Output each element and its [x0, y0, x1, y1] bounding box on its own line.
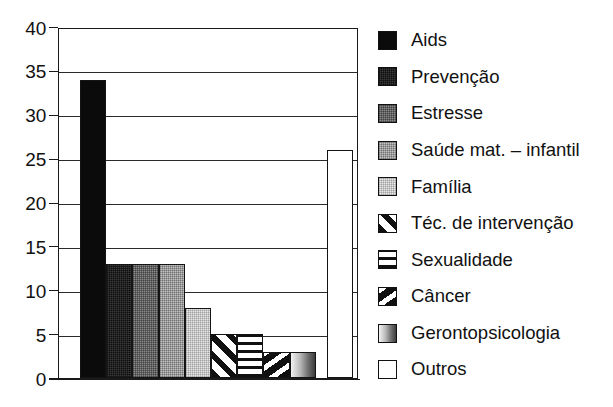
legend-label-7: Sexualidade: [411, 250, 513, 270]
y-tick-label-35: 35: [25, 62, 46, 81]
y-axis-line: [58, 28, 59, 379]
y-tick-label-5: 5: [36, 326, 46, 345]
y-tick-label-10: 10: [25, 282, 46, 301]
bar-10: [327, 150, 353, 378]
legend-item-5[interactable]: Família: [378, 168, 613, 205]
y-tick-15: [49, 246, 58, 247]
bar-7: [237, 334, 263, 378]
legend-swatch-icon-6: [378, 214, 397, 233]
plot-frame: [58, 28, 358, 379]
legend-swatch-icon-7: [378, 250, 397, 269]
x-axis-baseline: [49, 379, 360, 380]
bar-1: [80, 80, 106, 378]
legend-label-6: Téc. de intervenção: [411, 213, 573, 233]
bar-8: [263, 352, 289, 378]
y-tick-label-0: 0: [36, 370, 46, 389]
legend-label-2: Prevenção: [411, 67, 499, 87]
legend-item-8[interactable]: Câncer: [378, 278, 613, 315]
legend-swatch-icon-3: [378, 104, 397, 123]
legend-swatch-icon-5: [378, 177, 397, 196]
y-tick-label-25: 25: [25, 150, 46, 169]
y-tick-10: [49, 290, 58, 291]
legend-swatch-icon-2: [378, 67, 397, 86]
y-tick-label-20: 20: [25, 194, 46, 213]
legend-swatch-icon-8: [378, 287, 397, 306]
legend-label-10: Outros: [411, 359, 467, 379]
bar-6: [211, 334, 237, 378]
y-tick-label-40: 40: [25, 19, 46, 38]
legend-label-4: Saúde mat. – infantil: [411, 140, 580, 160]
bar-chart-figure: 4035302520151050 AidsPrevençãoEstresseSa…: [0, 0, 613, 407]
legend-swatch-icon-10: [378, 360, 397, 379]
bar-5: [185, 308, 211, 378]
bar-2: [106, 264, 132, 378]
bar-4: [159, 264, 185, 378]
bar-series: [59, 29, 357, 378]
y-axis-tick-labels: 4035302520151050: [0, 0, 46, 407]
bar-9: [290, 352, 316, 378]
legend-item-9[interactable]: Gerontopsicologia: [378, 315, 613, 352]
y-tick-30: [49, 115, 58, 116]
legend-item-6[interactable]: Téc. de intervenção: [378, 205, 613, 242]
legend-item-2[interactable]: Prevenção: [378, 59, 613, 96]
legend-label-9: Gerontopsicologia: [411, 323, 560, 343]
legend-swatch-icon-9: [378, 324, 397, 343]
y-tick-label-15: 15: [25, 238, 46, 257]
legend-item-4[interactable]: Saúde mat. – infantil: [378, 132, 613, 169]
legend-swatch-icon-1: [378, 31, 397, 50]
y-tick-40: [49, 27, 58, 28]
chart-plot-region: 4035302520151050: [0, 0, 370, 407]
y-tick-20: [49, 203, 58, 204]
legend-item-10[interactable]: Outros: [378, 351, 613, 388]
y-tick-25: [49, 159, 58, 160]
legend-swatch-icon-4: [378, 141, 397, 160]
legend-item-3[interactable]: Estresse: [378, 95, 613, 132]
bar-3: [132, 264, 158, 378]
y-tick-35: [49, 71, 58, 72]
legend-item-7[interactable]: Sexualidade: [378, 242, 613, 279]
y-tick-5: [49, 334, 58, 335]
legend-label-1: Aids: [411, 30, 447, 50]
legend-label-8: Câncer: [411, 286, 471, 306]
legend-label-3: Estresse: [411, 103, 483, 123]
chart-legend: AidsPrevençãoEstresseSaúde mat. – infant…: [378, 22, 613, 388]
legend-label-5: Família: [411, 177, 472, 197]
y-tick-label-30: 30: [25, 106, 46, 125]
legend-item-1[interactable]: Aids: [378, 22, 613, 59]
